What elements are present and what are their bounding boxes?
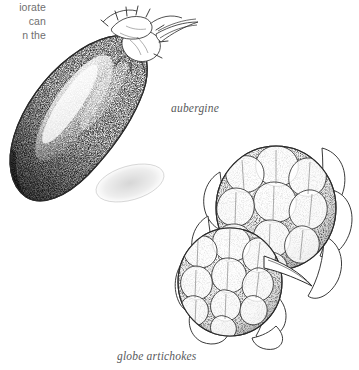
page-canvas: iorate can n the xyxy=(0,0,359,370)
caption-globe-artichokes: globe artichokes xyxy=(117,350,197,362)
aubergine-illustration xyxy=(0,0,200,215)
globe-artichokes-illustration xyxy=(172,130,359,350)
caption-aubergine: aubergine xyxy=(171,102,219,114)
aubergine-cast-shadow xyxy=(90,156,169,210)
